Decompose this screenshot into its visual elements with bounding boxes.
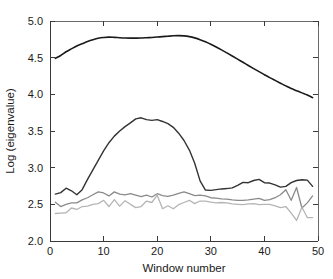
x-tick-label: 10 [97,245,109,257]
y-tick-label: 3.5 [28,125,43,137]
y-tick-label: 3.0 [28,162,43,174]
y-tick-label: 4.5 [28,52,43,64]
x-tick-label: 50 [312,245,324,257]
y-tick-label: 2.5 [28,198,43,210]
x-tick-label: 40 [258,245,270,257]
x-axis-ticks [50,21,318,241]
series-line-eigenvalue-2 [55,118,312,195]
chart-figure: 2.02.53.03.54.04.55.0 01020304050 Window… [0,0,333,279]
y-axis-ticks [50,21,318,241]
x-tick-label: 0 [47,245,53,257]
series-line-eigenvalue-4 [55,195,312,220]
data-series-group [55,36,312,221]
axis-frame [50,21,318,241]
line-chart: 2.02.53.03.54.04.55.0 01020304050 Window… [0,0,333,279]
x-axis-tick-labels: 01020304050 [47,245,324,257]
x-tick-label: 20 [151,245,163,257]
x-tick-label: 30 [205,245,217,257]
series-line-eigenvalue-1 [55,36,312,98]
axis-box-upper [50,21,318,241]
y-axis-tick-labels: 2.02.53.03.54.04.55.0 [28,15,43,247]
y-tick-label: 5.0 [28,15,43,27]
axes-frame [50,21,318,241]
y-tick-label: 4.0 [28,88,43,100]
y-axis-title: Log (eigenvalue) [4,88,16,174]
x-axis-title: Window number [142,262,225,274]
y-tick-label: 2.0 [28,235,43,247]
